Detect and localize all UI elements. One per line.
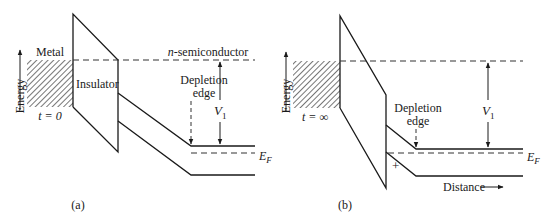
time-label-a: t = 0 [38,109,61,123]
panel-b: Energy t = ∞ EF + Depletion edge V1 Dist… [279,16,540,212]
energy-axis-label-a: Energy [13,79,27,113]
distance-axis-label: Distance [443,180,485,194]
depletion-label-b-line1: Depletion [394,101,441,115]
fermi-label-b: EF [526,150,540,166]
insulator-barrier-b [340,16,386,188]
conduction-band-a [118,93,255,146]
energy-axis-b: Energy [279,52,293,113]
energy-axis-a: Energy [13,50,27,113]
inversion-charge-plus: + [392,158,399,173]
mis-band-diagram-figure: Energy Metal t = 0 Insulator n-semicondu… [0,0,550,223]
depletion-label-a-line1: Depletion [180,73,227,87]
metal-fermi-sea-a [27,60,73,107]
conduction-band-b [386,125,523,149]
caption-b: (b) [338,198,352,212]
depletion-label-b-line2: edge [407,114,430,128]
insulator-label: Insulator [76,77,119,91]
depletion-label-a-line2: edge [193,86,216,100]
energy-axis-label-b: Energy [279,79,293,113]
valence-band-b [386,152,523,176]
panel-a: Energy Metal t = 0 Insulator n-semicondu… [13,14,272,212]
time-label-b: t = ∞ [302,110,328,124]
fermi-label-a: EF [258,149,272,165]
caption-a: (a) [71,198,84,212]
semiconductor-label: n-semiconductor [168,45,249,59]
metal-label: Metal [36,45,65,59]
metal-fermi-sea-b [293,61,340,108]
valence-band-a [118,121,255,175]
